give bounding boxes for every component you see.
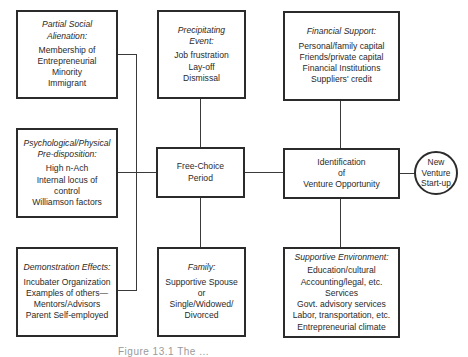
- connector-psychological: [117, 172, 157, 173]
- box-line: Entrepreneurial: [38, 56, 97, 67]
- box-line: Financial Institutions: [303, 63, 381, 74]
- box-heading: Partial Social Alienation:: [32, 19, 102, 41]
- new-venture-startup-circle: New Venture Start-up: [414, 151, 458, 195]
- identification-box: Identification of Venture Opportunity: [283, 148, 400, 199]
- box-heading: Psychological/Physical Pre-disposition:: [19, 138, 115, 160]
- box-line: Internal locus of: [37, 175, 98, 186]
- box-line: Govt. advisory services: [297, 299, 386, 310]
- family-box: Family: Supportive Spouse or Single/Wido…: [157, 247, 246, 337]
- box-line: Services: [325, 288, 358, 299]
- box-line: Dismissal: [183, 73, 220, 84]
- box-line: Mentors/Advisors: [34, 299, 100, 310]
- box-heading: Family:: [188, 262, 216, 273]
- connector-environment: [340, 198, 341, 247]
- box-line: or: [198, 288, 206, 299]
- figure-caption: Figure 13.1 The ...: [118, 346, 209, 357]
- box-heading: Supportive Environment:: [294, 252, 388, 263]
- box-line: Period: [188, 173, 213, 184]
- box-line: Friends/private capital: [299, 52, 383, 63]
- partial-social-alienation-box: Partial Social Alienation: Membership of…: [16, 10, 118, 99]
- box-line: Personal/family capital: [299, 41, 385, 52]
- box-line: Williamson factors: [32, 197, 102, 208]
- free-choice-period-box: Free-Choice Period: [156, 147, 245, 198]
- connector-family: [200, 197, 201, 247]
- connector-freechoice-identification: [244, 172, 284, 173]
- connector-alienation: [117, 54, 137, 55]
- box-line: Venture Opportunity: [303, 179, 379, 190]
- supportive-environment-box: Supportive Environment: Education/cultur…: [283, 247, 400, 338]
- box-line: Education/cultural: [307, 265, 375, 276]
- financial-support-box: Financial Support: Personal/family capit…: [283, 11, 400, 101]
- box-line: Membership of: [39, 45, 96, 56]
- connector-demonstration: [117, 290, 137, 291]
- box-line: High n-Ach: [46, 163, 89, 174]
- box-line: of: [338, 168, 345, 179]
- box-heading: Precipitating Event:: [170, 25, 234, 47]
- outcome-line: New: [428, 157, 445, 168]
- connector-financial: [340, 100, 341, 148]
- box-line: Free-Choice: [177, 161, 224, 172]
- box-line: Job frustration: [174, 50, 228, 61]
- box-line: Parent Self-employed: [26, 310, 109, 321]
- box-line: Single/Widowed/: [169, 299, 233, 310]
- box-line: Entrepreneurial climate: [297, 322, 385, 333]
- box-line: Supportive Spouse: [165, 277, 238, 288]
- connector-precipitating: [200, 98, 201, 148]
- box-line: Identification: [317, 157, 365, 168]
- precipitating-event-box: Precipitating Event: Job frustration Lay…: [157, 10, 246, 99]
- box-line: Labor, transportation, etc.: [293, 310, 390, 321]
- box-line: Accounting/legal, etc.: [301, 277, 383, 288]
- box-line: Examples of others—: [26, 288, 108, 299]
- box-line: Divorced: [185, 310, 219, 321]
- box-line: Suppliers' credit: [311, 74, 372, 85]
- box-line: Minority: [52, 67, 82, 78]
- psychological-predisposition-box: Psychological/Physical Pre-disposition: …: [16, 128, 118, 218]
- outcome-line: Start-up: [421, 178, 451, 189]
- demonstration-effects-box: Demonstration Effects: Incubater Organiz…: [16, 247, 118, 337]
- box-heading: Financial Support:: [307, 26, 376, 37]
- box-line: Immigrant: [48, 78, 86, 89]
- box-line: control: [54, 186, 80, 197]
- box-line: Lay-off: [188, 62, 214, 73]
- outcome-line: Venture: [422, 168, 451, 179]
- box-line: Incubater Organization: [24, 277, 111, 288]
- box-heading: Demonstration Effects:: [24, 262, 111, 273]
- connector-identification-outcome: [399, 173, 415, 174]
